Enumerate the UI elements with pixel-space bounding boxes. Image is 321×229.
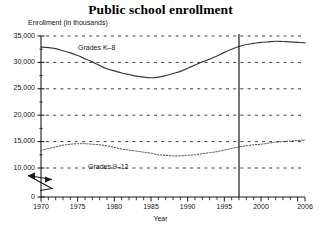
y-tick-label: 30,000 (5, 58, 35, 65)
x-tick-label: 1975 (63, 203, 93, 210)
x-tick-label: 1970 (26, 203, 56, 210)
x-tick-label: 1995 (209, 203, 239, 210)
x-tick-label: 2000 (246, 203, 276, 210)
axis-lines (41, 36, 305, 197)
y-tick-label: 0 (5, 193, 35, 200)
series-line-2 (41, 140, 305, 156)
y-tick-label: 25,000 (5, 84, 35, 91)
x-tick-label: 1980 (99, 203, 129, 210)
data-series (41, 41, 305, 156)
plot-area (0, 0, 321, 229)
y-axis-break-arrow-right (45, 177, 52, 183)
y-tick-label: 20,000 (5, 111, 35, 118)
series-label-2: Grades 9–12 (88, 163, 128, 170)
x-tick-label: 2006 (290, 203, 320, 210)
y-tick-label: 35,000 (5, 32, 35, 39)
y-axis-break-zigzag (28, 176, 52, 191)
y-axis-break-arrow-left (28, 173, 35, 180)
chart-screenshot: Public school enrollment Enrollment (in … (0, 0, 321, 229)
y-tick-label: 15,000 (5, 137, 35, 144)
axis-ticks (38, 36, 306, 202)
y-axis-break-icon (28, 173, 52, 191)
x-tick-label: 1985 (136, 203, 166, 210)
series-label-1: Grades K–8 (78, 44, 115, 51)
y-tick-label: 10,000 (5, 164, 35, 171)
gridlines (46, 36, 305, 168)
x-tick-label: 1990 (173, 203, 203, 210)
